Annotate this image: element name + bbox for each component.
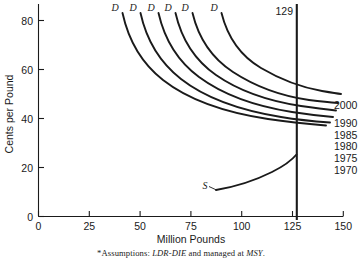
fishery-supply-demand-chart: 0 20 40 60 80 0 25 50 75 100 125 150 Mil… xyxy=(0,0,362,264)
x-tick-group: 0 25 50 75 100 125 150 xyxy=(36,211,353,232)
x-tick-label-50: 50 xyxy=(134,220,146,232)
year-label-1990: 1990 xyxy=(334,117,358,129)
y-tick-label-80: 80 xyxy=(21,15,33,27)
x-tick-label-125: 125 xyxy=(284,220,302,232)
year-label-1985: 1985 xyxy=(334,129,358,141)
demand-labels-group: D D D D D D xyxy=(110,2,218,13)
demand-label-d-3: D xyxy=(146,2,155,13)
supply-label-leader xyxy=(209,187,217,191)
y-axis-title: Cents per Pound xyxy=(3,74,15,153)
supply-curve xyxy=(216,155,297,191)
footnote-suffix: . xyxy=(263,248,265,258)
demand-label-d-4: D xyxy=(163,2,172,13)
x-tick-label-100: 100 xyxy=(233,220,251,232)
y-tick-label-20: 20 xyxy=(21,162,33,174)
footnote-term-msy: MSY xyxy=(246,248,263,258)
chart-plot-area: 0 20 40 60 80 0 25 50 75 100 125 150 Mil… xyxy=(0,0,362,264)
x-tick-label-75: 75 xyxy=(185,220,197,232)
year-label-1975: 1975 xyxy=(334,152,358,164)
demand-label-d-1: D xyxy=(110,2,119,13)
year-labels-group: 2000 1990 1985 1980 1975 1970 xyxy=(334,99,358,176)
demand-curve-2000 xyxy=(222,13,342,94)
x-tick-label-0: 0 xyxy=(36,220,42,232)
y-tick-label-60: 60 xyxy=(21,64,33,76)
y-tick-label-40: 40 xyxy=(21,113,33,125)
x-axis-title: Million Pounds xyxy=(157,233,225,245)
demand-curve-1980 xyxy=(159,13,334,117)
demand-curve-1985 xyxy=(176,13,337,111)
demand-label-d-5: D xyxy=(180,2,189,13)
demand-curves-group xyxy=(123,13,342,126)
footnote-term-ldr-die: LDR-DIE xyxy=(152,248,186,258)
x-tick-label-150: 150 xyxy=(335,220,353,232)
demand-curve-1970 xyxy=(123,13,327,126)
demand-label-d-6: D xyxy=(209,2,218,13)
chart-footnote: *Assumptions: LDR-DIE and managed at MSY… xyxy=(0,248,362,258)
supply-label-s: S xyxy=(203,180,208,191)
year-label-1980: 1980 xyxy=(334,140,358,152)
capacity-value-label: 129 xyxy=(275,5,293,17)
footnote-middle: and managed at xyxy=(186,248,246,258)
year-label-2000: 2000 xyxy=(334,99,358,111)
footnote-prefix: *Assumptions: xyxy=(97,248,152,258)
y-tick-label-0: 0 xyxy=(27,211,33,223)
x-tick-label-25: 25 xyxy=(83,220,95,232)
demand-label-d-2: D xyxy=(128,2,137,13)
year-label-1970: 1970 xyxy=(334,164,358,176)
y-tick-group: 0 20 40 60 80 xyxy=(21,15,44,223)
